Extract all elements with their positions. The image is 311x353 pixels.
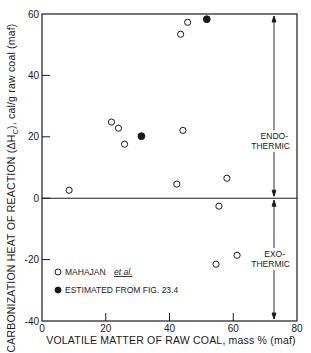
x-tick-label: 20 [100,323,112,334]
endothermic-label-line2: THERMIC [251,141,290,151]
data-point-mahajan [180,127,186,133]
legend: MAHAJAN et al. ESTIMATED FROM FIG. 23.4 [55,267,178,295]
exothermic-label: EXO- THERMIC [251,248,293,270]
legend-open-circle-icon [55,269,61,275]
x-tick-label: 80 [291,323,303,334]
endothermic-label-line1: ENDO- [261,131,289,141]
data-point-mahajan [178,31,184,37]
arrowhead-icon [272,200,276,206]
endo-exo-arrows [272,16,276,319]
data-point-mahajan [216,203,222,209]
y-tick-label: -20 [25,254,40,265]
data-point-estimated [203,16,210,23]
x-tick-label: 0 [39,323,45,334]
data-point-mahajan [174,181,180,187]
y-tick-label: -40 [25,316,40,327]
data-point-mahajan [213,261,219,267]
x-axis-title: VOLATILE MATTER OF RAW COAL, mass % (maf… [46,334,296,346]
data-point-mahajan [185,19,191,25]
x-tick-label: 40 [164,323,176,334]
legend-label-estimated: ESTIMATED FROM FIG. 23.4 [65,285,178,295]
data-point-mahajan [224,175,230,181]
data-point-estimated [138,133,145,140]
exothermic-label-line2: THERMIC [251,259,290,269]
y-axis-ticks: -40-200204060 [25,9,50,327]
y-tick-label: 0 [33,193,39,204]
legend-label-mahajan: MAHAJAN et al. [65,267,132,277]
endothermic-label: ENDO- THERMIC [251,130,293,152]
arrowhead-icon [272,16,276,22]
scatter-chart: 020406080 -40-200204060 ENDO- THERMIC EX… [0,0,311,353]
data-point-mahajan [115,125,121,131]
data-point-mahajan [234,252,240,258]
data-point-mahajan [121,141,127,147]
data-points [66,16,240,267]
y-tick-label: 20 [28,131,40,142]
x-axis-ticks: 020406080 [39,313,303,334]
arrowhead-icon [272,190,276,196]
y-axis-title: CARBONIZATION HEAT OF REACTION (ΔHC), ca… [5,23,20,352]
data-point-mahajan [108,119,114,125]
x-tick-label: 60 [228,323,240,334]
exothermic-label-line1: EXO- [264,249,285,259]
y-tick-label: 60 [28,9,40,20]
data-point-mahajan [66,187,72,193]
arrowhead-icon [272,313,276,319]
legend-filled-circle-icon [55,287,61,293]
y-tick-label: 40 [28,70,40,81]
